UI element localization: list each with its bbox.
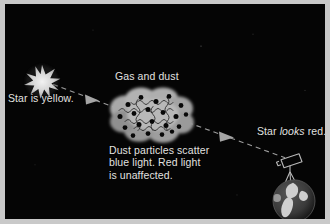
sky-canvas: Star is yellow. Gas and dust Dust partic… [5,4,325,219]
star-burst [24,65,60,99]
figure-frame: Star is yellow. Gas and dust Dust partic… [0,0,330,224]
diagram-graphics [5,4,325,219]
light-beam-cloud-to-telescope [188,123,285,158]
gas-and-dust-cloud [110,87,194,142]
earth-globe [273,180,315,219]
